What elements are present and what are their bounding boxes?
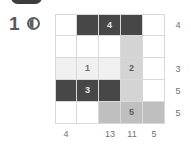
row-clue-4: 5 — [167, 80, 189, 102]
puzzle-grid[interactable]: 41235 — [55, 14, 165, 124]
grid-cell-r2-c5[interactable] — [143, 36, 165, 58]
grid-cell-r1-c5[interactable] — [143, 14, 165, 36]
question-number: 1 — [9, 14, 19, 33]
grid-cell-r5-c1[interactable] — [55, 102, 77, 124]
column-clue-3: 13 — [99, 126, 121, 142]
column-clue-4: 11 — [121, 126, 143, 142]
question-header: 1 — [9, 14, 40, 33]
column-clue-labels: 413115 — [55, 126, 165, 142]
grid-cell-r1-c2[interactable] — [77, 14, 99, 36]
grid-cell-r3-c3[interactable] — [99, 58, 121, 80]
grid-cell-r5-c2[interactable] — [77, 102, 99, 124]
grid-cell-r3-c1[interactable] — [55, 58, 77, 80]
grid-cell-r1-c3[interactable]: 4 — [99, 14, 121, 36]
row-clue-1: 4 — [167, 14, 189, 36]
row-clue-labels: 4355 — [167, 14, 189, 124]
grid-cell-r4-c1[interactable] — [55, 80, 77, 102]
column-clue-1: 4 — [55, 126, 77, 142]
top-badge-pill — [11, 0, 42, 4]
row-clue-3: 3 — [167, 58, 189, 80]
grid-cell-r4-c2[interactable]: 3 — [77, 80, 99, 102]
grid-cell-r2-c2[interactable] — [77, 36, 99, 58]
column-clue-2 — [77, 126, 99, 142]
row-clue-5: 5 — [167, 102, 189, 124]
grid-cell-r5-c3[interactable] — [99, 102, 121, 124]
grid-cell-r4-c5[interactable] — [143, 80, 165, 102]
grid-cell-r2-c3[interactable] — [99, 36, 121, 58]
contrast-circle-icon[interactable] — [27, 17, 40, 30]
grid-cell-r1-c4[interactable] — [121, 14, 143, 36]
grid-cell-r2-c1[interactable] — [55, 36, 77, 58]
grid-cell-r3-c2[interactable]: 1 — [77, 58, 99, 80]
grid-cell-r2-c4[interactable] — [121, 36, 143, 58]
grid-cell-r5-c5[interactable] — [143, 102, 165, 124]
column-clue-5: 5 — [143, 126, 165, 142]
row-clue-2 — [167, 36, 189, 58]
grid-cell-r3-c4[interactable]: 2 — [121, 58, 143, 80]
grid-cell-r4-c3[interactable] — [99, 80, 121, 102]
grid-cell-r5-c4[interactable]: 5 — [121, 102, 143, 124]
grid-cell-r1-c1[interactable] — [55, 14, 77, 36]
grid-cell-r3-c5[interactable] — [143, 58, 165, 80]
grid-cell-r4-c4[interactable] — [121, 80, 143, 102]
